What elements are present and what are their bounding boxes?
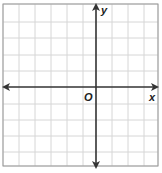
y-axis-label: y xyxy=(101,5,107,16)
grid-frame xyxy=(3,4,158,166)
coordinate-plane xyxy=(0,0,162,173)
grid-lines xyxy=(3,4,158,166)
origin-label: O xyxy=(84,92,93,103)
x-axis-label: x xyxy=(149,92,155,103)
